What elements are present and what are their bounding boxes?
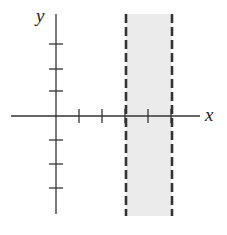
y-axis-label: y: [34, 5, 45, 26]
coordinate-plane: x y: [0, 0, 227, 235]
shaded-strip: [126, 14, 172, 216]
x-axis-label: x: [204, 104, 214, 125]
